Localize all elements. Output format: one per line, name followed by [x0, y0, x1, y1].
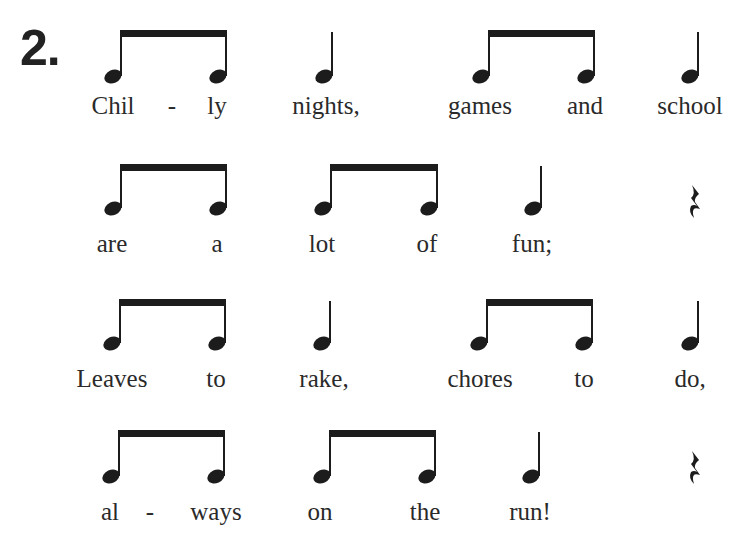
- lyric-syllable: Leaves: [77, 365, 148, 393]
- lyric-syllable: to: [574, 365, 593, 393]
- note-stem: [331, 32, 333, 76]
- lyric-syllable: games: [448, 92, 512, 120]
- lyric-syllable: to: [206, 365, 225, 393]
- note-beam: [488, 30, 595, 37]
- lyric-syllable: run!: [509, 498, 551, 526]
- notation-line-4: al-waysontherun!: [0, 420, 737, 542]
- note-stem: [436, 164, 438, 208]
- lyric-syllable: ly: [207, 92, 226, 120]
- note-stem: [224, 299, 226, 343]
- note-stem: [120, 164, 122, 208]
- lyric-syllable: rake,: [299, 365, 348, 393]
- note-stem: [488, 30, 490, 76]
- note-beam: [120, 164, 227, 171]
- lyric-syllable: nights,: [292, 92, 359, 120]
- lyric-syllable: of: [417, 230, 438, 258]
- note-stem: [593, 30, 595, 76]
- lyric-syllable: chores: [447, 365, 512, 393]
- note-stem: [118, 430, 120, 476]
- note-beam: [329, 430, 436, 437]
- note-beam: [119, 299, 226, 306]
- note-stem: [329, 301, 331, 343]
- lyric-syllable: fun;: [512, 230, 552, 258]
- note-stem: [119, 299, 121, 343]
- notation-line-1: Chil-lynights,gamesandschool: [0, 20, 737, 150]
- lyric-syllable: Chil: [91, 92, 134, 120]
- note-beam: [118, 430, 225, 437]
- note-stem: [538, 432, 540, 476]
- lyric-syllable: and: [567, 92, 603, 120]
- lyric-syllable: al: [101, 498, 119, 526]
- notation-line-2: arealotoffun;: [0, 150, 737, 280]
- notation-line-3: Leavestorake,chorestodo,: [0, 285, 737, 415]
- note-stem: [225, 30, 227, 76]
- note-stem: [486, 299, 488, 343]
- note-stem: [330, 164, 332, 208]
- lyric-syllable: are: [97, 230, 128, 258]
- note-stem: [223, 430, 225, 476]
- note-beam: [120, 30, 227, 37]
- note-stem: [540, 166, 542, 208]
- note-stem: [120, 30, 122, 76]
- note-stem: [697, 301, 699, 343]
- note-stem: [329, 430, 331, 476]
- lyric-syllable: -: [146, 498, 154, 526]
- lyric-syllable: -: [168, 92, 176, 120]
- lyric-syllable: the: [410, 498, 441, 526]
- lyric-syllable: ways: [190, 498, 241, 526]
- note-beam: [330, 164, 438, 171]
- quarter-rest-icon: [686, 184, 706, 220]
- note-beam: [486, 299, 593, 306]
- note-stem: [591, 299, 593, 343]
- lyric-syllable: a: [211, 230, 222, 258]
- quarter-rest-icon: [686, 450, 706, 486]
- note-stem: [434, 430, 436, 476]
- lyric-syllable: do,: [674, 365, 705, 393]
- lyric-syllable: on: [308, 498, 333, 526]
- lyric-syllable: school: [657, 92, 722, 120]
- lyric-syllable: lot: [309, 230, 335, 258]
- note-stem: [225, 164, 227, 208]
- note-stem: [697, 32, 699, 76]
